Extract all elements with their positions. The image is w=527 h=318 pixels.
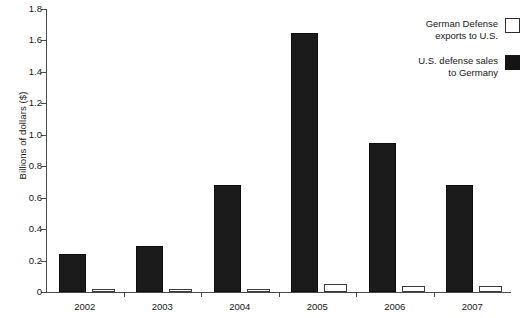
x-tick-mark [124, 292, 125, 297]
x-label-2003: 2003 [124, 301, 202, 312]
y-tick-label: 1.8 [29, 3, 42, 14]
bar-us-sales-2005 [291, 33, 318, 292]
legend-label-line2: to Germany [418, 67, 498, 79]
bar-chart: Billions of dollars ($) 00.20.40.60.81.0… [0, 0, 527, 318]
bar-us-sales-2002 [59, 254, 86, 292]
bar-group-2002 [46, 9, 124, 292]
legend-entry-0: German Defenseexports to U.S. [352, 17, 520, 41]
y-tick-label: 0.6 [29, 192, 42, 203]
x-label-2004: 2004 [201, 301, 279, 312]
x-tick-mark [356, 292, 357, 297]
legend-label-line2: exports to U.S. [426, 30, 498, 42]
legend-swatch-filled [505, 55, 520, 70]
legend-label: U.S. defense salesto Germany [418, 54, 505, 78]
y-tick-label: 0 [37, 286, 42, 297]
bar-us-sales-2004 [214, 185, 241, 292]
x-label-2002: 2002 [46, 301, 124, 312]
x-tick-mark [434, 292, 435, 297]
x-tick-mark [201, 292, 202, 297]
legend-entry-1: U.S. defense salesto Germany [352, 54, 520, 78]
y-tick-label: 1.2 [29, 97, 42, 108]
y-tick-label: 1.4 [29, 66, 42, 77]
x-label-2005: 2005 [279, 301, 357, 312]
x-label-2007: 2007 [434, 301, 512, 312]
chart-legend: German Defenseexports to U.S.U.S. defens… [352, 17, 520, 91]
bar-group-2004 [201, 9, 279, 292]
bar-german-exports-2007 [479, 286, 502, 292]
bar-german-exports-2003 [169, 289, 192, 292]
legend-label: German Defenseexports to U.S. [426, 17, 505, 41]
bar-german-exports-2004 [247, 289, 270, 292]
y-tick-label: 0.4 [29, 223, 42, 234]
legend-swatch-hollow [505, 18, 520, 33]
x-label-2006: 2006 [356, 301, 434, 312]
y-axis-title: Billions of dollars ($) [17, 56, 28, 216]
y-tick-label: 1.0 [29, 129, 42, 140]
bar-german-exports-2005 [324, 284, 347, 292]
legend-label-line1: U.S. defense sales [418, 55, 498, 67]
bar-us-sales-2006 [369, 143, 396, 292]
y-tick-label: 0.8 [29, 160, 42, 171]
x-tick-mark [279, 292, 280, 297]
bar-us-sales-2007 [446, 185, 473, 292]
y-tick-label: 0.2 [29, 255, 42, 266]
bar-group-2003 [124, 9, 202, 292]
bar-group-2005 [279, 9, 357, 292]
y-tick-label: 1.6 [29, 34, 42, 45]
bar-german-exports-2006 [402, 286, 425, 292]
bar-us-sales-2003 [136, 246, 163, 292]
legend-label-line1: German Defense [426, 18, 498, 30]
bar-german-exports-2002 [92, 289, 115, 292]
